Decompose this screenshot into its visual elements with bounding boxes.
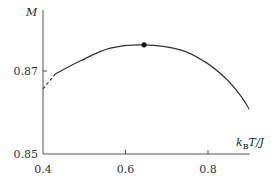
x-tick-label: 0.4 xyxy=(34,163,52,176)
marker-maximum xyxy=(141,42,146,47)
ticks: 0.40.60.80.850.87 xyxy=(14,65,217,176)
chart: 0.40.60.80.850.87 M kBT/J xyxy=(0,0,280,184)
axes xyxy=(43,10,250,154)
x-tick-label: 0.6 xyxy=(117,163,135,176)
x-axis-label-rest: T/J xyxy=(249,136,265,149)
series xyxy=(43,45,249,109)
y-tick-label: 0.87 xyxy=(14,65,39,78)
series-line-extrapolation xyxy=(43,74,55,89)
markers xyxy=(141,42,146,47)
y-tick-label: 0.85 xyxy=(14,148,39,161)
y-axis-label: M xyxy=(25,6,38,19)
x-tick-label: 0.8 xyxy=(199,163,217,176)
series-line-m-t- xyxy=(55,45,249,109)
x-axis-label: kBT/J xyxy=(236,136,265,151)
